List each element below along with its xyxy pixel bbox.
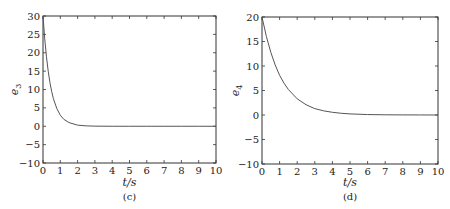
y-tick-label: 20 — [27, 47, 40, 58]
x-tick-label: 2 — [74, 165, 80, 176]
x-tick-label: 7 — [382, 166, 388, 177]
y-axis-label-subscript: 3 — [14, 84, 23, 89]
y-tick-label: 0 — [34, 121, 40, 132]
x-tick-label: 10 — [210, 165, 223, 176]
data-line-e3 — [43, 16, 216, 126]
panel-caption: (d) — [343, 191, 357, 202]
panel-c: 012345678910−10−5051015202530e3t/s(c) — [8, 11, 222, 203]
x-tick-label: 6 — [364, 166, 370, 177]
x-tick-label: 7 — [161, 165, 167, 176]
y-tick-label: 15 — [246, 36, 259, 47]
x-tick-label: 6 — [144, 165, 150, 176]
y-tick-label: 20 — [246, 12, 259, 23]
x-axis-label: t/s — [123, 176, 137, 189]
y-tick-label: −10 — [19, 158, 40, 169]
x-tick-label: 8 — [178, 165, 184, 176]
x-tick-label: 3 — [312, 166, 318, 177]
x-tick-label: 8 — [400, 166, 406, 177]
panel-d: 012345678910−10−505101520e4t/s(d) — [229, 12, 444, 203]
y-tick-label: 10 — [27, 84, 40, 95]
y-tick-label: 0 — [253, 110, 259, 121]
y-tick-label: 15 — [27, 66, 40, 77]
x-tick-label: 5 — [126, 165, 132, 176]
y-tick-label: −5 — [25, 139, 40, 150]
panel-caption: (c) — [123, 191, 137, 202]
x-tick-label: 10 — [432, 166, 445, 177]
y-tick-label: 30 — [27, 11, 40, 22]
y-axis-label-subscript: 4 — [235, 85, 244, 90]
x-tick-label: 4 — [109, 165, 115, 176]
chart-figure: 012345678910−10−5051015202530e3t/s(c) 01… — [0, 0, 450, 209]
y-axis-label: e3 — [8, 84, 23, 96]
plot-frame — [43, 16, 216, 163]
data-line-e4 — [262, 17, 438, 115]
x-tick-label: 2 — [294, 166, 300, 177]
plot-frame — [262, 17, 438, 164]
x-axis-label: t/s — [343, 176, 357, 189]
x-tick-label: 0 — [40, 165, 46, 176]
y-tick-label: −5 — [244, 134, 259, 145]
y-axis-label: e4 — [229, 85, 244, 97]
x-tick-label: 0 — [259, 166, 265, 177]
y-tick-label: 10 — [246, 61, 259, 72]
x-tick-label: 9 — [417, 166, 423, 177]
y-tick-label: 5 — [253, 85, 259, 96]
x-tick-label: 1 — [57, 165, 63, 176]
x-tick-label: 3 — [92, 165, 98, 176]
x-tick-label: 1 — [276, 166, 282, 177]
x-tick-label: 4 — [329, 166, 335, 177]
y-tick-label: −10 — [238, 159, 259, 170]
y-tick-label: 25 — [27, 29, 40, 40]
x-tick-label: 9 — [196, 165, 202, 176]
y-tick-label: 5 — [34, 102, 40, 113]
